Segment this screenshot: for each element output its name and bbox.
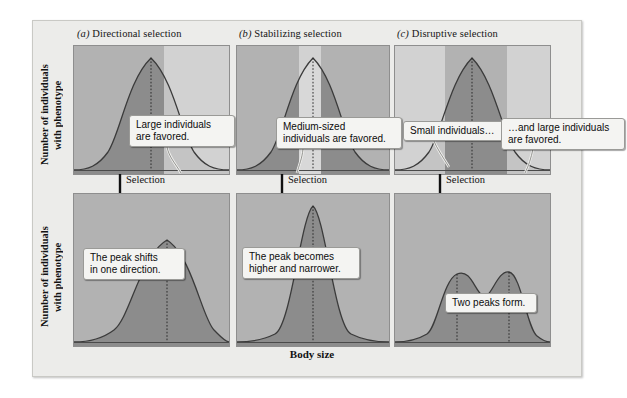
selection-label-stabilizing: Selection: [288, 174, 327, 185]
selection-label-disruptive: Selection: [446, 174, 485, 185]
callout-tail-c-large: [523, 149, 549, 175]
plot-panel-directional-before: [73, 45, 230, 175]
panel-title-text-b: Stabilizing selection: [254, 28, 342, 39]
panel-letter-c: (c): [397, 28, 409, 39]
panel-title-text-c: Disruptive selection: [412, 28, 498, 39]
callout-tail-a: [161, 147, 189, 175]
y-axis-label-bottom-row: Number of individuals with phenotype: [39, 213, 65, 341]
panel-title-text-a: Directional selection: [92, 28, 181, 39]
callout-small-individuals-favored: Small individuals…: [403, 121, 509, 141]
curve-directional-before: [74, 46, 229, 174]
callout-large-individuals-favored: Large individuals are favored.: [129, 115, 235, 147]
callout-medium-individuals-favored: Medium-sized individuals are favored.: [276, 117, 402, 149]
selection-label-directional: Selection: [126, 174, 165, 185]
callout-two-peaks-form: Two peaks form.: [445, 293, 537, 313]
figure-frame: (a) Directional selection (b) Stabilizin…: [32, 20, 582, 377]
panel-letter-b: (b): [239, 28, 252, 39]
y-axis-label-top-row: Number of individuals with phenotype: [39, 51, 65, 179]
panel-title-directional: (a) Directional selection: [77, 28, 182, 39]
callout-peak-shifts: The peak shifts in one direction.: [83, 248, 185, 280]
panel-title-disruptive: (c) Disruptive selection: [397, 28, 498, 39]
callout-large-individuals-favored-c: …and large individuals are favored.: [501, 118, 625, 150]
panel-letter-a: (a): [77, 28, 90, 39]
x-axis-label: Body size: [236, 348, 388, 360]
figure-root: (a) Directional selection (b) Stabilizin…: [0, 0, 627, 398]
callout-tail-c-small: [429, 139, 455, 169]
callout-tail-b: [295, 149, 319, 175]
panel-title-stabilizing: (b) Stabilizing selection: [239, 28, 342, 39]
plot-panel-disruptive-after: [394, 193, 551, 347]
curve-disruptive-after: [395, 194, 550, 346]
callout-peak-higher-narrower: The peak becomes higher and narrower.: [242, 247, 360, 279]
